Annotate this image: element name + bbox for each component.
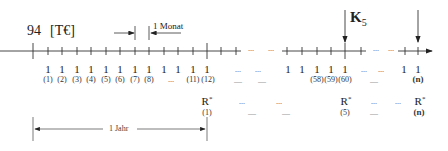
payment-index: (5) xyxy=(101,76,110,84)
payment-value: 1 xyxy=(204,64,210,75)
payment-value: 1 xyxy=(299,64,305,75)
annuity-r1: R* xyxy=(202,96,213,107)
annuity-star: * xyxy=(209,95,213,103)
k-subscript: 5 xyxy=(362,17,367,28)
payment-index: (7) xyxy=(130,76,139,84)
payment-index-ellipsis: ... xyxy=(168,76,174,84)
annuity-index: (1) xyxy=(202,109,211,117)
annuity-star: * xyxy=(348,95,352,103)
payment-index: (58) xyxy=(310,76,323,84)
index-dash: — xyxy=(234,78,242,86)
value-ellipsis: ... xyxy=(235,66,241,74)
annuity-dash: — xyxy=(282,110,290,118)
payment-value: 1 xyxy=(103,64,109,75)
annuity-ellipsis: ... xyxy=(276,98,282,106)
axis-ellipsis: ... xyxy=(388,45,394,53)
annuity-ellipsis: ... xyxy=(371,98,377,106)
index-dash: — xyxy=(258,78,266,86)
payment-value: 1 xyxy=(59,64,65,75)
payment-value: 1 xyxy=(314,64,320,75)
payment-index-n: (n) xyxy=(413,75,424,84)
payment-index: (11) xyxy=(186,76,199,84)
payment-value: 1 xyxy=(88,64,94,75)
value-ellipsis: ... xyxy=(378,66,384,74)
payment-index: (60) xyxy=(338,76,351,84)
payment-value: 1 xyxy=(161,64,167,75)
payment-value: 1 xyxy=(146,64,152,75)
payment-value: 1 xyxy=(175,64,181,75)
annuity-index: (5) xyxy=(340,109,349,117)
month-label: 1 Monat xyxy=(153,22,183,31)
axis-ellipsis: ... xyxy=(373,45,379,53)
annuity-r5: R* xyxy=(341,96,352,107)
k5-label: K5 xyxy=(350,10,367,28)
payment-value: 1 xyxy=(342,64,348,75)
value-ellipsis: ... xyxy=(361,66,367,74)
payment-value: 1 xyxy=(190,64,196,75)
axis-ellipsis: ... xyxy=(268,45,274,53)
payment-value: 1 xyxy=(117,64,123,75)
payment-value: 1 xyxy=(285,64,291,75)
payment-index: (4) xyxy=(86,76,95,84)
unit-label: [T€] xyxy=(50,24,75,38)
value-ellipsis: ... xyxy=(255,66,261,74)
payment-value: 1 xyxy=(132,64,138,75)
payment-index: (8) xyxy=(144,76,153,84)
index-dash: — xyxy=(370,78,378,86)
year-label: 1 Jahr xyxy=(109,125,128,133)
axis-ellipsis: ... xyxy=(248,45,254,53)
annuity-ellipsis: ... xyxy=(239,98,245,106)
annuity-dash: — xyxy=(370,110,378,118)
payment-index: (59) xyxy=(324,76,337,84)
annuity-index-n: (n) xyxy=(414,108,425,117)
payment-index: (2) xyxy=(57,76,66,84)
time-axis xyxy=(0,43,432,59)
payment-value: 1 xyxy=(45,64,51,75)
payment-index: (6) xyxy=(115,76,124,84)
payment-index: (1) xyxy=(43,76,52,84)
payment-value: 1 xyxy=(328,64,334,75)
k-symbol: K xyxy=(350,9,362,25)
payment-value: 1 xyxy=(74,64,80,75)
payment-index: (3) xyxy=(72,76,81,84)
amount-label: 94 xyxy=(27,24,41,38)
annuity-rn: R* xyxy=(415,96,426,107)
payment-value: 1 xyxy=(401,64,407,75)
annuity-star: * xyxy=(422,95,426,103)
payment-index: (12) xyxy=(201,76,214,84)
annuity-dash: — xyxy=(248,110,256,118)
annuity-ellipsis: ... xyxy=(395,98,401,106)
